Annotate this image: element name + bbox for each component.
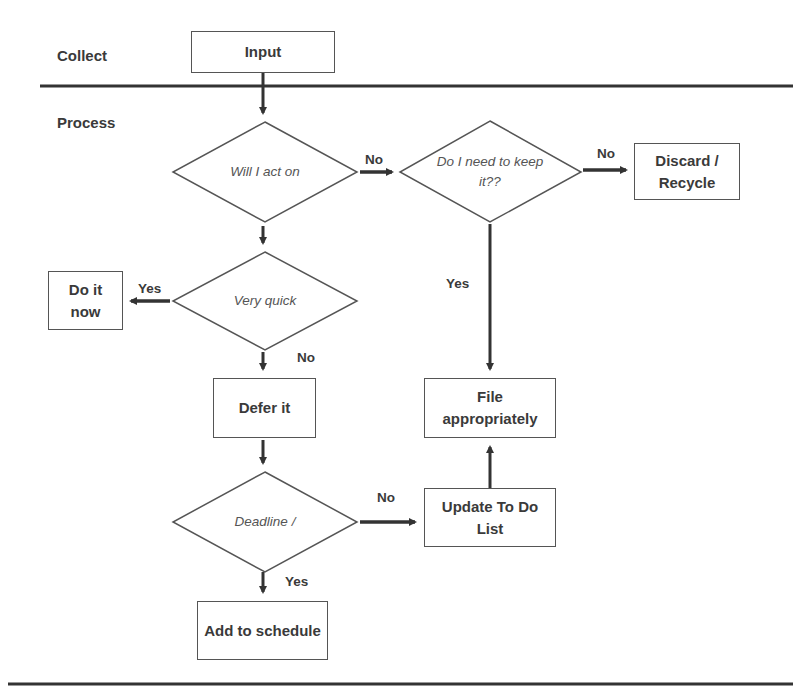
edge-label-quick-yes: Yes [138,281,161,296]
node-input[interactable]: Input [191,31,335,73]
node-discard-recycle[interactable]: Discard / Recycle [634,143,740,200]
node-update-todo-list[interactable]: Update To Do List [424,488,556,547]
edge-label-deadline-yes: Yes [285,574,308,589]
edge-label-deadline-no: No [377,490,395,505]
node-do-it-now[interactable]: Do it now [48,271,123,330]
decision-very-quick[interactable]: Very quick [200,280,330,322]
flowchart-connectors [0,0,793,695]
decision-deadline[interactable]: Deadline / [200,500,330,544]
lane-label-process: Process [57,114,115,131]
edge-label-keep-yes: Yes [446,276,469,291]
edge-label-quick-no: No [297,350,315,365]
edge-label-act-no: No [365,152,383,167]
node-add-to-schedule[interactable]: Add to schedule [197,601,328,660]
lane-label-collect: Collect [57,47,107,64]
decision-will-act[interactable]: Will I act on [200,150,330,194]
node-file-appropriately[interactable]: File appropriately [424,378,556,438]
decision-keep-it[interactable]: Do I need to keep it?? [428,148,552,196]
node-defer-it[interactable]: Defer it [213,378,316,438]
edge-label-keep-no: No [597,146,615,161]
